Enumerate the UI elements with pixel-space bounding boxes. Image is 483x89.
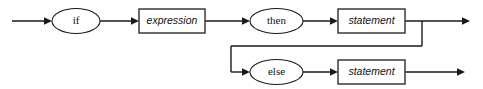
node-if[interactable]: if [52,9,100,34]
node-if-label: if [73,14,80,26]
node-expression[interactable]: expression [139,9,205,33]
arrowhead-entry [44,17,52,25]
arrowhead-to-else [242,68,250,76]
arrowhead-top-exit [462,17,470,25]
arrowhead-if-to-expression [131,17,139,25]
node-expression-label: expression [147,14,198,26]
arrowhead-expression-to-then [242,17,250,25]
arrowhead-then-to-statement [330,17,338,25]
node-else-label: else [268,65,285,77]
arrowhead-bottom-exit [457,68,465,76]
node-then[interactable]: then [250,9,303,34]
node-then-label: then [267,14,286,26]
railroad-diagram: if expression then statement else statem… [0,0,483,89]
node-statement-then-label: statement [348,14,395,26]
arrowhead-else-to-statement [330,68,338,76]
node-statement-else[interactable]: statement [338,60,405,84]
node-else[interactable]: else [250,60,303,85]
node-statement-else-label: statement [348,65,395,77]
node-statement-then[interactable]: statement [338,9,405,33]
syntax-diagram-canvas: if expression then statement else statem… [0,0,483,89]
